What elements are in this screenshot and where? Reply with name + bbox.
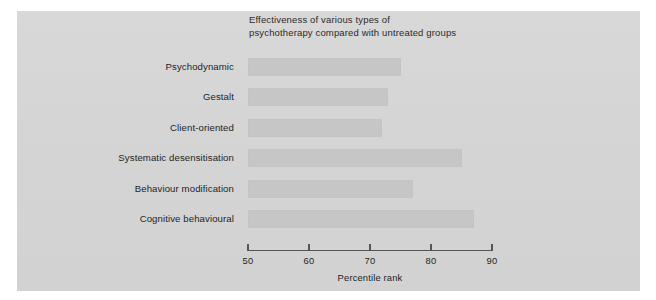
x-axis-tick — [491, 244, 492, 251]
x-axis-tick — [430, 244, 431, 251]
category-label: Client-oriented — [0, 122, 234, 133]
category-label: Psychodynamic — [0, 61, 234, 72]
bar — [248, 210, 474, 228]
x-axis-tick — [247, 244, 248, 251]
bar — [248, 119, 382, 137]
x-axis-tick — [308, 244, 309, 251]
x-axis-tick-label: 50 — [243, 255, 254, 266]
x-axis-title: Percentile rank — [248, 272, 492, 283]
category-label: Behaviour modification — [0, 183, 234, 194]
x-axis-tick — [369, 244, 370, 251]
category-label: Systematic desensitisation — [0, 152, 234, 163]
category-label: Gestalt — [0, 91, 234, 102]
bar — [248, 180, 413, 198]
x-axis-tick-label: 60 — [304, 255, 315, 266]
x-axis-tick-label: 70 — [365, 255, 376, 266]
x-axis-tick-label: 90 — [487, 255, 498, 266]
chart-title: Effectiveness of various types of psycho… — [249, 13, 549, 39]
bar — [248, 88, 388, 106]
category-label: Cognitive behavioural — [0, 213, 234, 224]
x-axis-tick-label: 80 — [426, 255, 437, 266]
bar — [248, 149, 462, 167]
chart-figure: Effectiveness of various types of psycho… — [0, 0, 656, 300]
bar — [248, 58, 401, 76]
